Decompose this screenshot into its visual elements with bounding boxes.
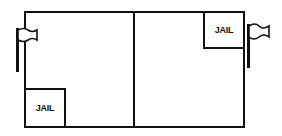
jail-left-label: JAIL [36, 103, 54, 113]
flag-icon [12, 24, 40, 74]
flag-icon [244, 20, 274, 70]
jail-right: JAIL [203, 11, 245, 49]
center-line [133, 11, 135, 126]
jail-right-label: JAIL [215, 25, 233, 35]
jail-left: JAIL [24, 88, 66, 128]
